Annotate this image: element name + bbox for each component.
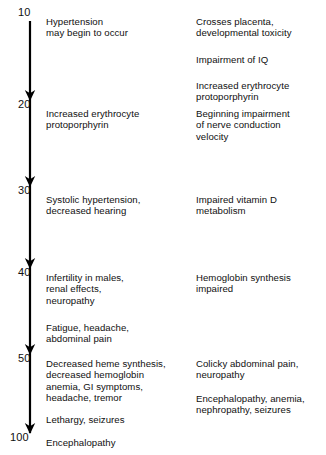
- effect-text-right-18: Increased erythrocyte protoporphyrin: [196, 80, 326, 103]
- effect-text-right-55: Encephalopathy, anemia, nephropathy, sei…: [196, 393, 326, 416]
- effect-text-right-10: Crosses placenta, developmental toxicity: [196, 16, 326, 39]
- effect-text-right-50: Colicky abdominal pain, neuropathy: [196, 358, 326, 381]
- axis-tick-label-100: 100: [10, 432, 29, 443]
- effect-text-left-55: Lethargy, seizures: [46, 414, 196, 425]
- axis-tick-label-10: 10: [18, 7, 30, 18]
- effect-text-left-10: Hypertension may begin to occur: [46, 16, 196, 39]
- effect-text-left-30: Systolic hypertension, decreased hearing: [46, 194, 196, 217]
- effect-text-right-20: Beginning impairment of nerve conduction…: [196, 108, 326, 142]
- effect-text-left-100: Encephalopathy: [46, 437, 196, 448]
- axis-tick-label-20: 20: [18, 99, 30, 110]
- effect-text-left-20: Increased erythrocyte protoporphyrin: [46, 108, 196, 131]
- effect-text-left-40: Infertility in males, renal effects, neu…: [46, 272, 196, 306]
- effect-text-left-45: Fatigue, headache, abdominal pain: [46, 322, 196, 345]
- axis-tick-label-50: 50: [18, 353, 30, 364]
- lead-toxicity-scale-diagram: 1020304050100 Hypertension may begin to …: [0, 0, 326, 455]
- effect-text-right-30: Impaired vitamin D metabolism: [196, 194, 326, 217]
- effect-text-left-50: Decreased heme synthesis, decreased hemo…: [46, 358, 196, 404]
- effect-text-right-40: Hemoglobin synthesis impaired: [196, 272, 326, 295]
- effect-text-right-15: Impairment of IQ: [196, 54, 326, 65]
- axis-tick-label-30: 30: [18, 185, 30, 196]
- axis-tick-label-40: 40: [18, 267, 30, 278]
